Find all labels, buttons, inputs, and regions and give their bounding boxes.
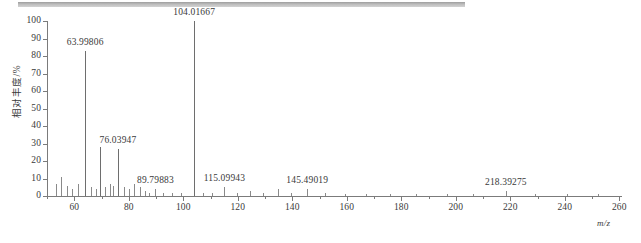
spectrum-peak	[506, 191, 507, 196]
spectrum-peak	[212, 193, 213, 197]
x-axis-title: m/z	[597, 218, 610, 228]
mass-spectrum-figure: 0102030405060708090100 60801001201401601…	[0, 0, 641, 243]
spectrum-peak	[113, 186, 114, 197]
spectrum-peak	[100, 147, 101, 196]
spectrum-peak	[124, 187, 125, 196]
y-tick	[43, 126, 47, 127]
x-tick-label: 220	[503, 203, 518, 213]
x-minor-tick	[483, 196, 484, 199]
x-minor-tick	[265, 196, 266, 199]
x-tick	[619, 196, 620, 201]
x-axis-line	[47, 196, 622, 197]
spectrum-peak	[325, 193, 326, 197]
spectrum-peak	[118, 149, 119, 196]
y-tick	[43, 161, 47, 162]
y-tick	[43, 21, 47, 22]
x-tick-label: 80	[124, 203, 134, 213]
spectrum-peak	[155, 189, 156, 196]
x-tick-label: 140	[285, 203, 300, 213]
y-tick	[43, 91, 47, 92]
spectrum-peak	[345, 194, 346, 196]
x-minor-tick	[320, 196, 321, 199]
y-tick-label: 100	[26, 16, 41, 26]
spectrum-peak	[110, 184, 111, 196]
spectrum-peak	[140, 187, 141, 196]
x-minor-tick	[156, 196, 157, 199]
x-tick	[238, 196, 239, 201]
y-tick	[43, 179, 47, 180]
spectrum-peak	[85, 51, 86, 196]
spectrum-peak	[78, 184, 79, 196]
y-tick-label: 0	[36, 191, 41, 201]
x-tick	[401, 196, 402, 201]
spectrum-peak	[567, 194, 568, 196]
spectrum-peak	[250, 191, 251, 196]
spectrum-peak	[416, 194, 417, 196]
x-minor-tick	[429, 196, 430, 199]
y-axis-title: 相对丰度/%	[9, 65, 23, 118]
peak-label: 89.79883	[137, 176, 174, 186]
x-minor-tick	[374, 196, 375, 199]
spectrum-peak	[237, 193, 238, 197]
spectrum-peak	[203, 193, 204, 197]
peak-label: 76.03947	[100, 136, 137, 146]
spectrum-peak	[172, 193, 173, 197]
y-tick-label: 90	[31, 34, 41, 44]
spectrum-peak	[194, 21, 195, 196]
peak-label: 63.99806	[67, 38, 104, 48]
y-tick-label: 30	[31, 139, 41, 149]
spectrum-peak	[91, 187, 92, 196]
spectrum-peak	[598, 194, 599, 196]
spectrum-peak	[473, 194, 474, 196]
spectrum-peak	[366, 194, 367, 196]
spectrum-peak	[535, 194, 536, 196]
x-tick-label: 120	[230, 203, 245, 213]
y-axis-line	[47, 21, 48, 196]
spectrum-peak	[181, 193, 182, 197]
spectrum-peak	[61, 177, 62, 196]
peak-label: 104.01667	[173, 8, 215, 18]
spectrum-peak	[56, 184, 57, 196]
x-minor-tick	[592, 196, 593, 199]
spectrum-peak	[278, 189, 279, 196]
x-tick-label: 240	[557, 203, 572, 213]
spectrum-peak	[149, 193, 150, 197]
y-tick	[43, 56, 47, 57]
x-minor-tick	[47, 196, 48, 199]
y-tick	[43, 144, 47, 145]
x-tick-label: 100	[176, 203, 191, 213]
spectrum-peak	[307, 189, 308, 196]
x-tick-label: 200	[448, 203, 463, 213]
x-tick	[74, 196, 75, 201]
y-tick-label: 10	[31, 174, 41, 184]
x-tick	[183, 196, 184, 201]
spectrum-peak	[447, 194, 448, 196]
x-minor-tick	[538, 196, 539, 199]
y-tick-label: 50	[31, 104, 41, 114]
plot-area: 0102030405060708090100 60801001201401601…	[47, 21, 622, 196]
y-tick	[43, 39, 47, 40]
y-tick	[43, 74, 47, 75]
x-tick-label: 160	[339, 203, 354, 213]
top-divider-rule	[18, 2, 465, 7]
spectrum-peak	[163, 193, 164, 197]
x-tick	[347, 196, 348, 201]
spectrum-peak	[67, 186, 68, 197]
y-tick	[43, 109, 47, 110]
y-tick-label: 20	[31, 156, 41, 166]
x-tick-label: 60	[69, 203, 79, 213]
y-tick-label: 40	[31, 121, 41, 131]
x-minor-tick	[211, 196, 212, 199]
spectrum-peak	[134, 184, 135, 196]
x-tick	[129, 196, 130, 201]
spectrum-peak	[105, 187, 106, 196]
spectrum-peak	[224, 187, 225, 196]
spectrum-peak	[72, 189, 73, 196]
spectrum-peak	[263, 193, 264, 197]
x-minor-tick	[102, 196, 103, 199]
peak-label: 218.39275	[485, 178, 527, 188]
x-tick	[565, 196, 566, 201]
x-tick	[292, 196, 293, 201]
spectrum-peak	[291, 193, 292, 197]
x-tick-label: 180	[394, 203, 409, 213]
